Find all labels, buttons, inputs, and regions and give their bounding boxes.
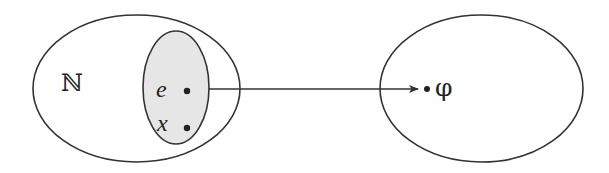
element-label-e: e bbox=[156, 76, 167, 102]
set-label-naturals: ℕ bbox=[61, 69, 83, 97]
element-label-phi: φ bbox=[435, 73, 453, 102]
element-dot-phi bbox=[424, 86, 430, 92]
element-label-x: x bbox=[156, 110, 168, 136]
element-dot-x bbox=[184, 125, 190, 131]
subset-ellipse bbox=[143, 31, 209, 144]
element-dot-e bbox=[184, 88, 190, 94]
set-mapping-diagram: ℕ e x φ bbox=[0, 0, 609, 173]
